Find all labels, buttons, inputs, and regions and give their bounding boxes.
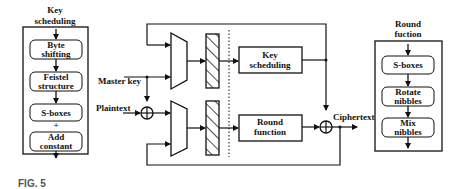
right-panel-title-1: Round <box>395 19 421 29</box>
key-scheduling-panel: Key scheduling Byte shifting Feistel str… <box>23 5 88 158</box>
key-scheduling-label-1: Key <box>262 50 278 60</box>
center-datapath: Master key Plaintext Key scheduling Roun… <box>96 24 375 165</box>
step-feistel-2: structure <box>38 81 73 91</box>
right-panel-title-2: fuction <box>395 29 422 39</box>
left-panel-title-2: scheduling <box>34 16 76 26</box>
block-diagram: Key scheduling Byte shifting Feistel str… <box>0 0 462 189</box>
left-panel-title-1: Key <box>47 5 63 15</box>
svg-text:+: + <box>53 120 58 130</box>
step-sboxes: S-boxes <box>41 108 71 118</box>
ciphertext-label: Ciphertext <box>333 112 375 122</box>
step-byte-shifting-2: shifting <box>41 49 71 59</box>
plaintext-label: Plaintext <box>96 103 131 113</box>
rf-step-mix-2: nibbles <box>394 127 422 137</box>
round-function-label-1: Round <box>257 117 283 127</box>
rf-step-rotate-2: nibbles <box>394 96 422 106</box>
key-scheduling-label-2: scheduling <box>249 60 291 70</box>
figure-caption: FIG. 5 <box>18 178 46 189</box>
round-function-panel: Round fuction S-boxes Rotate nibbles Mix… <box>375 19 442 151</box>
round-function-label-2: function <box>254 127 286 137</box>
rf-step-sboxes: S-boxes <box>393 60 423 70</box>
step-add-constant-2: constant <box>40 141 73 151</box>
